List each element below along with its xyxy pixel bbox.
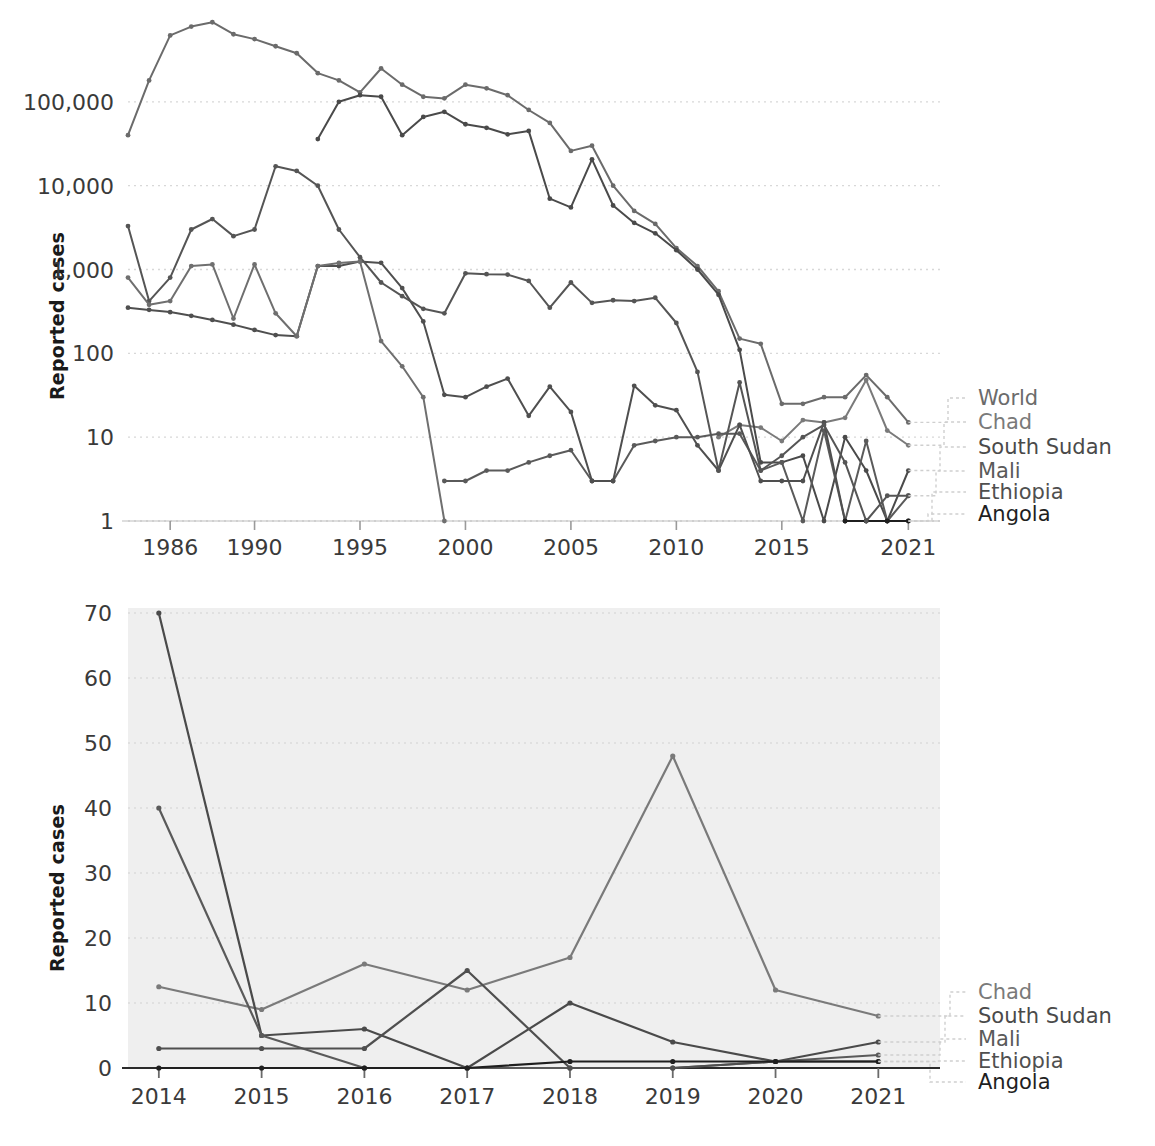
series-point bbox=[337, 99, 342, 104]
series-point bbox=[632, 383, 637, 388]
series-point bbox=[273, 333, 278, 338]
x-tick-label-bottom: 2016 bbox=[336, 1084, 392, 1109]
series-point bbox=[505, 93, 510, 98]
series-point bbox=[843, 415, 848, 420]
x-tick-label-top: 2010 bbox=[648, 535, 704, 560]
series-point bbox=[864, 373, 869, 378]
series-point bbox=[315, 137, 320, 142]
series-point bbox=[273, 311, 278, 316]
legend-item-south-sudan[interactable]: South Sudan bbox=[978, 1004, 1112, 1028]
series-point bbox=[126, 275, 131, 280]
y-tick-label-bottom: 20 bbox=[84, 926, 112, 951]
series-point bbox=[168, 33, 173, 38]
series-point bbox=[885, 428, 890, 433]
series-point bbox=[567, 1000, 572, 1005]
x-tick-label-bottom: 2015 bbox=[234, 1084, 290, 1109]
x-tick-label-top: 2021 bbox=[880, 535, 936, 560]
series-point bbox=[695, 370, 700, 375]
series-point bbox=[569, 148, 574, 153]
series-point bbox=[156, 805, 161, 810]
series-point bbox=[526, 279, 531, 284]
series-point bbox=[442, 479, 447, 484]
series-point bbox=[484, 125, 489, 130]
series-point bbox=[189, 24, 194, 29]
series-point bbox=[758, 341, 763, 346]
legend-leader-line bbox=[908, 514, 966, 521]
series-point bbox=[168, 299, 173, 304]
legend-item-chad[interactable]: Chad bbox=[978, 980, 1032, 1004]
series-line bbox=[128, 22, 908, 422]
series-point bbox=[156, 610, 161, 615]
x-tick-label-top: 1986 bbox=[142, 535, 198, 560]
series-point bbox=[362, 1065, 367, 1070]
series-point bbox=[189, 264, 194, 269]
series-point bbox=[569, 448, 574, 453]
series-point bbox=[590, 143, 595, 148]
legend-item-angola[interactable]: Angola bbox=[978, 502, 1051, 526]
series-point bbox=[547, 121, 552, 126]
series-point bbox=[168, 275, 173, 280]
series-point bbox=[822, 519, 827, 524]
y-tick-label-bottom: 60 bbox=[84, 666, 112, 691]
series-point bbox=[210, 20, 215, 25]
series-point bbox=[126, 305, 131, 310]
series-point bbox=[526, 460, 531, 465]
series-point bbox=[400, 82, 405, 87]
legend-item-chad[interactable]: Chad bbox=[978, 410, 1032, 434]
series-point bbox=[189, 227, 194, 232]
series-point bbox=[695, 267, 700, 272]
x-tick-label-bottom: 2019 bbox=[645, 1084, 701, 1109]
series-point bbox=[358, 255, 363, 260]
legend-item-south-sudan[interactable]: South Sudan bbox=[978, 435, 1112, 459]
series-point bbox=[737, 423, 742, 428]
series-point bbox=[670, 1065, 675, 1070]
series-point bbox=[252, 262, 257, 267]
series-point bbox=[379, 339, 384, 344]
series-point bbox=[358, 93, 363, 98]
legend-item-ethiopia[interactable]: Ethiopia bbox=[978, 480, 1064, 504]
series-point bbox=[801, 519, 806, 524]
series-point bbox=[653, 403, 658, 408]
series-point bbox=[547, 384, 552, 389]
series-point bbox=[779, 401, 784, 406]
series-point bbox=[674, 435, 679, 440]
series-point bbox=[695, 443, 700, 448]
series-point bbox=[315, 183, 320, 188]
series-point bbox=[379, 260, 384, 265]
y-tick-label-bottom: 0 bbox=[98, 1056, 112, 1081]
series-point bbox=[505, 272, 510, 277]
series-point bbox=[590, 157, 595, 162]
y-tick-label-bottom: 30 bbox=[84, 861, 112, 886]
series-point bbox=[400, 133, 405, 138]
series-point bbox=[465, 1065, 470, 1070]
series-point bbox=[885, 493, 890, 498]
series-point bbox=[421, 94, 426, 99]
series-point bbox=[210, 318, 215, 323]
series-point bbox=[421, 306, 426, 311]
series-point bbox=[864, 519, 869, 524]
series-point bbox=[632, 209, 637, 214]
plot-background bbox=[128, 608, 940, 1068]
legend-item-mali[interactable]: Mali bbox=[978, 1027, 1021, 1051]
legend-item-angola[interactable]: Angola bbox=[978, 1070, 1051, 1094]
series-point bbox=[156, 1046, 161, 1051]
series-point bbox=[670, 1039, 675, 1044]
x-tick-label-top: 2015 bbox=[754, 535, 810, 560]
series-point bbox=[632, 220, 637, 225]
x-tick-label-bottom: 2018 bbox=[542, 1084, 598, 1109]
series-point bbox=[400, 286, 405, 291]
y-tick-label-bottom: 40 bbox=[84, 796, 112, 821]
y-tick-label-top: 10,000 bbox=[37, 173, 114, 198]
legend-leader-line bbox=[908, 471, 966, 496]
legend-item-world[interactable]: World bbox=[978, 386, 1038, 410]
series-point bbox=[442, 96, 447, 101]
series-point bbox=[259, 1046, 264, 1051]
series-point bbox=[779, 460, 784, 465]
series-point bbox=[670, 1059, 675, 1064]
series-point bbox=[231, 322, 236, 327]
y-tick-label-top: 1,000 bbox=[51, 257, 114, 282]
series-point bbox=[801, 453, 806, 458]
series-point bbox=[231, 234, 236, 239]
series-point bbox=[590, 479, 595, 484]
series-point bbox=[465, 987, 470, 992]
